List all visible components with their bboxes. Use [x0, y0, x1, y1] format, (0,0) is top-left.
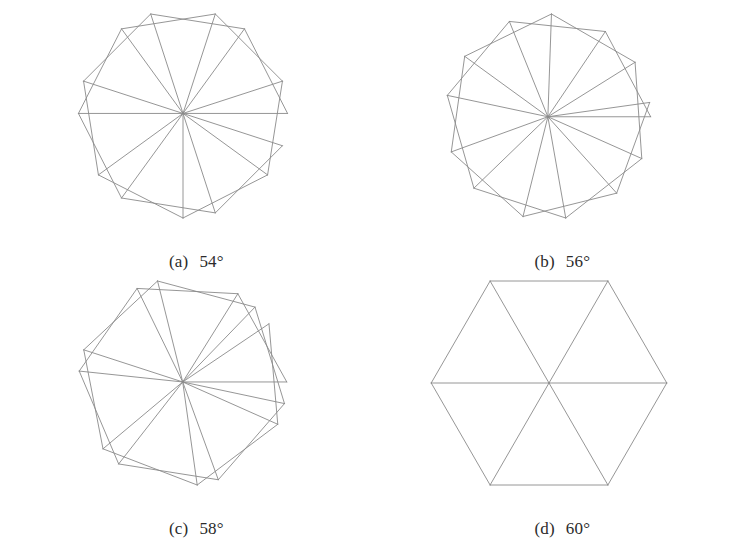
tiling-edge	[158, 281, 183, 382]
tiling-edge	[119, 464, 219, 480]
tiling-edge	[447, 21, 509, 95]
spiral-tiling-b	[366, 0, 732, 232]
tiling-edge	[635, 62, 642, 158]
tiling-edge	[183, 14, 215, 113]
tiling-edge	[122, 113, 183, 198]
tiling-edge	[474, 117, 548, 188]
panel-c-label: (c)	[169, 519, 188, 538]
tiling-edge	[465, 14, 552, 56]
tiling-edge	[103, 382, 183, 449]
tiling-edge	[158, 281, 255, 307]
tiling-edge	[78, 113, 121, 198]
tiling-edge	[78, 29, 121, 114]
tiling-edge	[447, 95, 474, 188]
tiling-edge	[255, 307, 284, 403]
tiling-edge	[451, 117, 548, 152]
tiling-edge	[244, 29, 287, 114]
tiling-edge	[183, 382, 285, 404]
tiling-edge	[183, 307, 255, 382]
tiling-edge	[119, 382, 183, 464]
tiling-edge	[183, 29, 244, 114]
panel-a: (a)54°	[0, 0, 366, 266]
tiling-edge	[551, 14, 635, 62]
tiling-edge	[183, 113, 268, 174]
tiling-edge	[215, 146, 282, 213]
tiling-edge	[98, 113, 183, 174]
tiling-edge	[151, 14, 245, 29]
tiling-edge	[215, 14, 282, 81]
tiling-edge	[183, 113, 215, 212]
tiling-edge	[84, 14, 151, 81]
tiling-edge	[548, 62, 635, 116]
tiling-edge	[84, 350, 103, 449]
tiling-edge	[490, 281, 549, 383]
tiling-edge	[268, 81, 283, 175]
tiling-edge	[218, 404, 284, 480]
panel-d-label: (d)	[534, 519, 554, 538]
tiling-edges	[447, 14, 650, 218]
spiral-tiling-d	[366, 267, 732, 499]
tiling-edge	[103, 449, 197, 485]
tiling-edge	[122, 14, 216, 29]
tiling-edge	[238, 294, 287, 382]
tiling-edge	[549, 281, 608, 383]
tiling-edge	[431, 383, 490, 485]
tiling-edge	[490, 383, 549, 485]
tiling-edge	[548, 117, 617, 193]
tiling-edges	[431, 281, 667, 485]
tiling-edge	[183, 382, 219, 480]
tiling-edge	[451, 56, 464, 152]
tiling-edge	[523, 117, 548, 217]
tiling-edge	[122, 29, 183, 114]
panel-d-caption: (d)60°	[366, 499, 732, 542]
tiling-edge	[183, 382, 197, 485]
tiling-edge	[79, 371, 118, 464]
tiling-edge	[548, 117, 642, 159]
panel-c-value: 58°	[199, 519, 223, 538]
panel-c-caption: (c)58°	[0, 499, 366, 542]
tiling-edge	[183, 294, 238, 382]
tiling-edge	[183, 324, 269, 382]
tiling-edge	[523, 193, 617, 216]
tiling-edge	[566, 159, 642, 218]
panel-b: (b)56°	[366, 0, 732, 266]
tiling-edge	[183, 175, 268, 218]
tiling-edge	[183, 81, 282, 113]
tiling-edge	[431, 281, 490, 383]
tiling-edge	[548, 14, 552, 117]
spiral-tiling-a	[0, 0, 366, 232]
tiling-edge	[608, 281, 667, 383]
tiling-edge	[608, 383, 667, 485]
panel-c: (c)58°	[0, 267, 366, 533]
tiling-edges	[78, 14, 287, 218]
tiling-edge	[151, 14, 183, 113]
tiling-edge	[548, 32, 605, 117]
panel-d-value: 60°	[566, 519, 590, 538]
tiling-edge	[548, 102, 650, 116]
tiling-edge	[183, 113, 282, 145]
tiling-edge	[84, 281, 158, 350]
tiling-edge	[137, 288, 183, 382]
tiling-edge	[98, 175, 183, 218]
tiling-edge	[617, 102, 650, 193]
tiling-edge	[509, 21, 605, 31]
panel-d: (d)60°	[366, 267, 732, 533]
tiling-edges	[79, 281, 287, 485]
tiling-edge	[549, 383, 608, 485]
tiling-edge	[79, 288, 137, 371]
tiling-edge	[84, 81, 183, 113]
tiling-edge	[605, 32, 650, 117]
tiling-edge	[183, 382, 278, 424]
tiling-edge	[269, 324, 278, 425]
spiral-tiling-c	[0, 267, 366, 499]
tiling-edge	[451, 152, 523, 217]
tiling-edge	[548, 117, 566, 218]
